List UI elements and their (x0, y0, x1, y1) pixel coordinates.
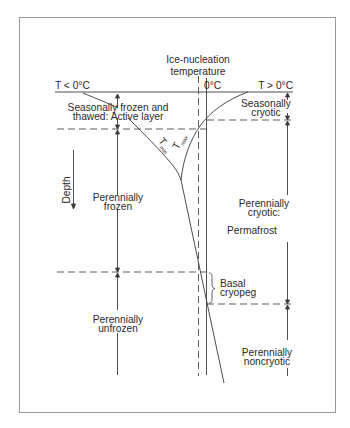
permafrost-label: Permafrost (227, 225, 277, 236)
depth-label: Depth (61, 176, 72, 203)
basal-cryopeg-label-line2: cryopeg (220, 287, 257, 298)
ice-nucleation-label-line2: temperature (171, 66, 226, 77)
active-layer-label-line2: thawed: Active layer (73, 111, 164, 122)
axis-left-label: T < 0°C (55, 80, 90, 91)
ice-nucleation-label-line1: Ice-nucleation (166, 54, 229, 65)
cryotic-zones-figure: Ice-nucleation temperature T < 0°C 0°C T… (0, 0, 350, 428)
perennially-noncryotic-label-line2: noncryotic (244, 356, 290, 367)
perennially-unfrozen-label-line2: unfrozen (98, 323, 138, 334)
perennially-frozen-label-line2: frozen (104, 201, 132, 212)
seasonally-cryotic-label-line2: cryotic (251, 107, 280, 118)
axis-right-label: T > 0°C (258, 80, 293, 91)
axis-zero-label: 0°C (204, 80, 221, 91)
perennially-cryotic-label-line2: cryotic: (248, 207, 280, 218)
